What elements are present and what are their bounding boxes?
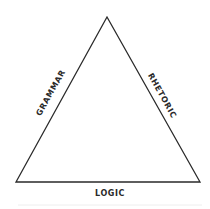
trivium-diagram: GRAMMAR RHETORIC LOGIC bbox=[0, 0, 210, 209]
label-grammar: GRAMMAR bbox=[34, 68, 67, 117]
triangle-diagram: GRAMMAR RHETORIC LOGIC bbox=[0, 0, 210, 209]
label-logic: LOGIC bbox=[95, 189, 125, 198]
